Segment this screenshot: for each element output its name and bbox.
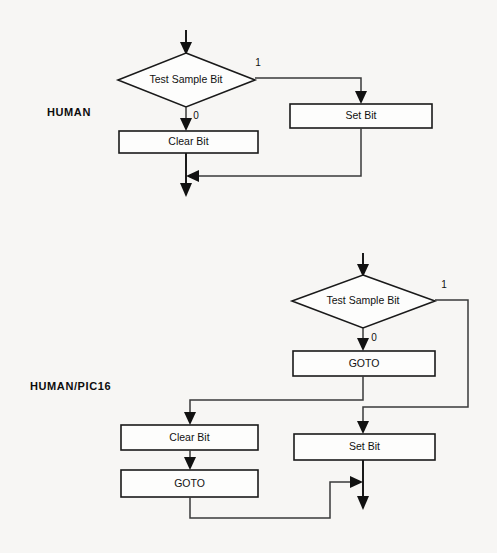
process-label-set-bit-human: Set Bit	[346, 109, 377, 121]
process-label-clear-bit-human: Clear Bit	[168, 135, 208, 147]
decision-label-pic16: Test Sample Bit	[327, 294, 400, 306]
decision-label-human: Test Sample Bit	[150, 73, 223, 85]
edge-true-human	[255, 78, 367, 104]
flowchart-canvas: HUMAN Test Sample Bit 1 Set Bit 0	[0, 0, 497, 553]
branch-label-false-human: 0	[193, 110, 199, 121]
process-label-set-bit-pic16: Set Bit	[349, 440, 380, 452]
branch-label-true-pic16: 1	[441, 279, 447, 290]
section-label-human-pic16: HUMAN/PIC16	[30, 380, 111, 392]
exit-arrow-human	[180, 176, 192, 197]
process-label-goto-return-pic16: GOTO	[174, 477, 205, 489]
edge-clear-bit-to-goto-pic16	[184, 450, 196, 470]
process-label-clear-bit-pic16: Clear Bit	[169, 431, 209, 443]
exit-arrow-pic16	[357, 482, 369, 510]
diagram-human-pic16: HUMAN/PIC16 Test Sample Bit 1 0	[30, 253, 468, 518]
section-label-human: HUMAN	[47, 106, 91, 118]
entry-arrow-human-pic16	[357, 253, 369, 277]
process-label-goto-false-pic16: GOTO	[349, 357, 380, 369]
entry-arrow-human	[180, 30, 192, 55]
branch-label-false-pic16: 0	[371, 332, 377, 343]
branch-label-true-human: 1	[255, 57, 261, 68]
edge-false-pic16	[357, 328, 369, 351]
edge-goto-to-clear-bit-pic16	[184, 376, 363, 425]
diagram-human: HUMAN Test Sample Bit 1 Set Bit 0	[47, 30, 432, 197]
edge-false-human	[180, 107, 192, 131]
